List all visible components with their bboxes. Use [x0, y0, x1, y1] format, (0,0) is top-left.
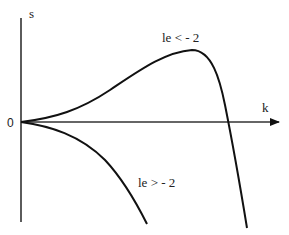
- upper-curve-label: le < - 2: [162, 30, 199, 45]
- dispersion-diagram: s k 0 le < - 2 le > - 2: [0, 0, 289, 235]
- origin-label: 0: [7, 116, 14, 130]
- curve-le-greater-than-minus-2: [21, 122, 147, 224]
- lower-curve-label: le > - 2: [138, 175, 175, 190]
- y-axis-label: s: [29, 6, 34, 21]
- x-axis-label: k: [262, 100, 269, 115]
